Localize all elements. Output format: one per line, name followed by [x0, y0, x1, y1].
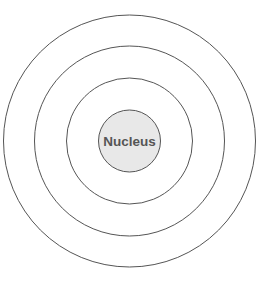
- nucleus-label: Nucleus: [103, 134, 156, 149]
- atom-diagram: Nucleus: [0, 0, 259, 281]
